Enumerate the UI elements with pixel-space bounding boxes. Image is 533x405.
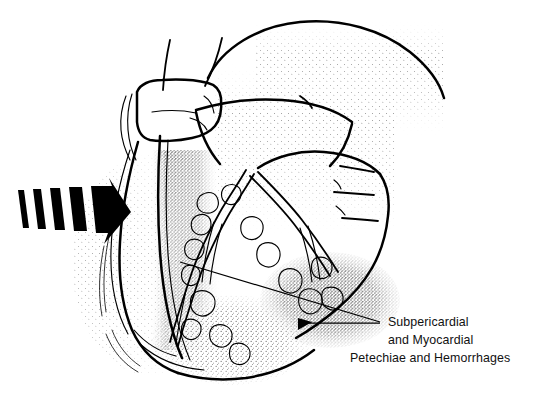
annotation-line-2: and Myocardial xyxy=(388,333,473,347)
illustration-canvas: Subpericardial and Myocardial Petechiae … xyxy=(0,0,533,405)
heart-illustration-figure: Subpericardial and Myocardial Petechiae … xyxy=(0,0,533,405)
annotation-line-1: Subpericardial xyxy=(388,315,469,329)
annotation-line-3: Petechiae and Hemorrhages xyxy=(350,351,510,365)
